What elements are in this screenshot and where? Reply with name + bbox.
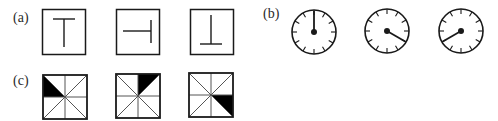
clock-12-icon [292,10,336,54]
panel-c [43,73,233,119]
figure-t-inverted [191,10,234,55]
figure-shaded-top-left [43,75,87,119]
clock-4-icon [365,9,409,53]
figure-shaded-top-right [116,74,160,118]
panel-a [43,10,234,55]
clock-8-icon [439,9,483,53]
panel-b [292,9,483,54]
figure-shaded-bottom-right [189,73,233,117]
figure-t-upright [43,10,86,55]
diagram-canvas [0,0,498,121]
figure-t-rotated-right [117,10,160,55]
